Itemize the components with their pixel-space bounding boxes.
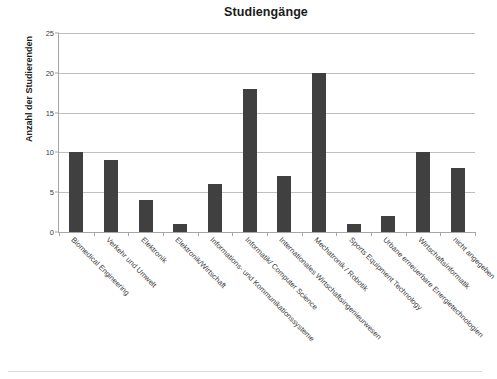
y-tick-mark: [55, 33, 59, 34]
x-axis-category-label: Informatik/ Computer Science: [243, 236, 318, 311]
gridline: [59, 73, 475, 74]
chart-title: Studiengänge: [58, 5, 474, 19]
gridline: [59, 152, 475, 153]
bar: [208, 184, 222, 232]
bar: [381, 216, 395, 232]
gridline: [59, 33, 475, 34]
bar: [243, 89, 257, 232]
y-tick-mark: [55, 112, 59, 113]
y-tick-label: 10: [46, 148, 54, 157]
bar: [347, 224, 361, 232]
bar: [104, 160, 118, 232]
y-tick-label: 25: [46, 29, 54, 38]
gridline: [59, 113, 475, 114]
y-tick-mark: [55, 192, 59, 193]
gridline: [59, 192, 475, 193]
x-axis-category-label: Elektronik: [139, 236, 168, 265]
x-tick-mark: [475, 232, 476, 236]
y-tick-label: 0: [50, 228, 54, 237]
bar: [173, 224, 187, 232]
y-tick-label: 15: [46, 108, 54, 117]
y-tick-label: 20: [46, 68, 54, 77]
bar: [312, 73, 326, 232]
y-tick-mark: [55, 72, 59, 73]
bar: [69, 152, 83, 232]
plot-area: 0510152025: [58, 33, 475, 233]
y-tick-label: 5: [50, 188, 54, 197]
x-axis-category-label: Biomedical Engineering: [70, 236, 131, 297]
bar: [139, 200, 153, 232]
y-axis-title: Anzahl der Studierenden: [24, 0, 34, 184]
x-axis-labels: Biomedical EngineeringVerkehr und Umwelt…: [58, 236, 474, 354]
bar: [277, 176, 291, 232]
y-tick-mark: [55, 152, 59, 153]
x-axis-category-label: Sports Equipment Technology: [347, 236, 423, 312]
footer-divider: [8, 371, 482, 372]
bar: [451, 168, 465, 232]
bar: [416, 152, 430, 232]
